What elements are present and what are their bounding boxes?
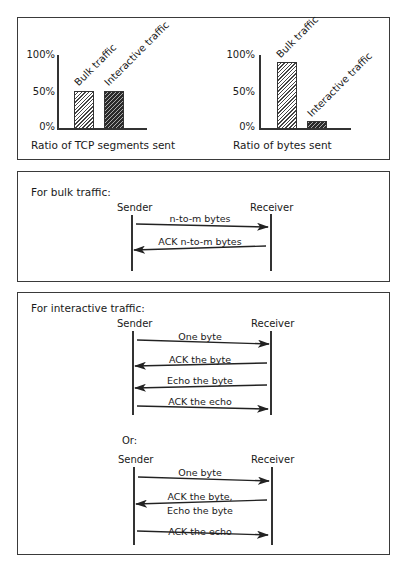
arrow-left-icon xyxy=(136,500,267,504)
arrow-right-icon xyxy=(137,340,269,344)
arrow-right-icon xyxy=(136,224,268,227)
arrow-right-icon xyxy=(137,406,268,409)
message-arrows xyxy=(0,0,409,565)
arrow-left-icon xyxy=(135,385,267,388)
arrow-right-icon xyxy=(137,531,268,535)
arrow-right-icon xyxy=(138,477,269,481)
arrow-left-icon xyxy=(134,246,266,250)
arrow-left-icon xyxy=(135,363,267,366)
